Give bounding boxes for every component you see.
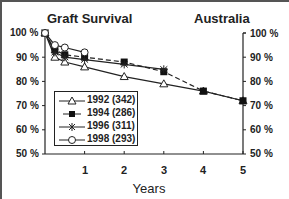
markers-1996 [41, 29, 168, 73]
circle-open-icon [57, 133, 87, 146]
asterisk-icon [57, 120, 87, 133]
legend-label: 1998 (293) [87, 133, 135, 144]
legend-item-1998: 1998 (293) [55, 133, 137, 146]
legend-label: 1992 (342) [87, 94, 135, 105]
square-filled-icon [57, 107, 87, 120]
legend-label: 1996 (311) [87, 120, 135, 131]
legend-item-1996: 1996 (311) [55, 120, 137, 133]
legend: 1992 (342) 1994 (286) 1996 (311) 1998 (2… [54, 91, 138, 146]
legend-item-1994: 1994 (286) [55, 107, 137, 120]
triangle-open-icon [57, 94, 87, 107]
legend-item-1992: 1992 (342) [55, 94, 137, 107]
legend-label: 1994 (286) [87, 107, 135, 118]
plot-area [0, 0, 289, 199]
